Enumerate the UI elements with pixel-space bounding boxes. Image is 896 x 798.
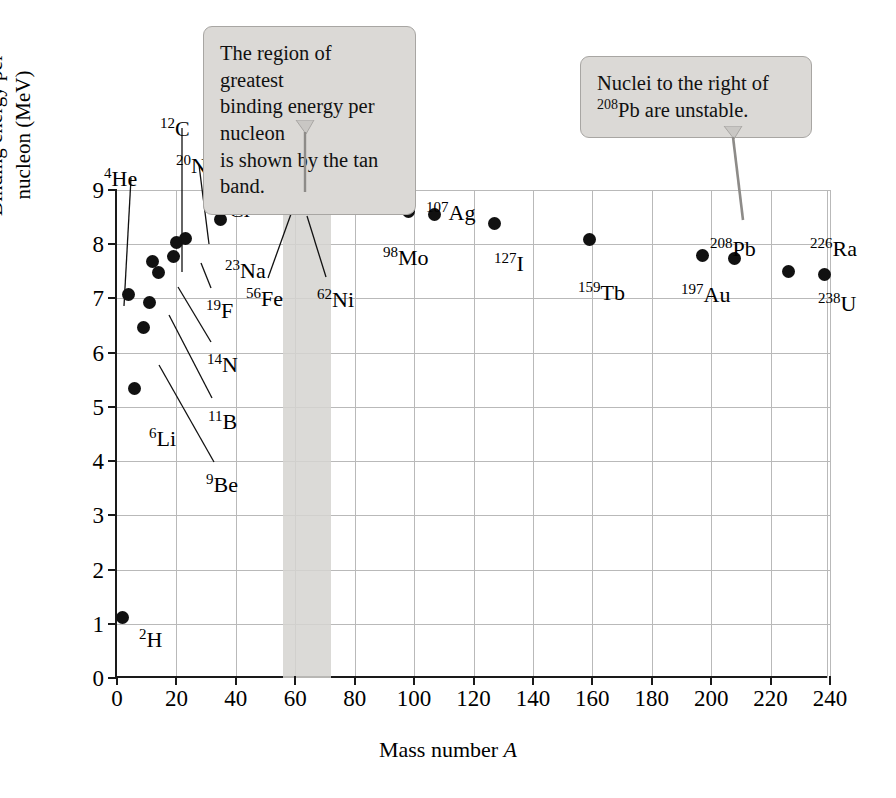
nuclide-label-li: 6Li [149,428,176,450]
nuclide-label-h: 2H [139,629,162,651]
data-point-n [152,266,165,279]
nuclide-mass-au: 197 [681,281,704,297]
x-tick-60 [294,676,296,685]
nuclide-mass-ni: 62 [317,286,332,302]
x-tick-0 [116,676,118,685]
nuclide-symbol-f: F [221,298,233,323]
nuclide-label-be: 9Be [206,474,238,496]
gridline-x-220 [771,190,772,678]
y-axis-title-line1: Binding energy per [0,54,7,216]
nuclide-label-n: 14N [207,354,238,376]
tan-band-rect [283,190,331,678]
nuclide-symbol-ni: Ni [332,287,354,312]
x-axis-title-text: Mass number [379,737,504,762]
callout-unstable-line2: 208Pb are unstable. [597,97,795,124]
y-tick-4 [108,460,117,462]
nuclide-label-au: 197Au [681,284,730,306]
nuclide-mass-b: 11 [208,408,222,424]
nuclide-mass-ne: 20 [176,152,191,168]
nuclide-symbol-li: Li [157,426,177,451]
x-tick-label-0: 0 [111,687,123,710]
x-tick-label-140: 140 [516,687,551,710]
gridline-x-120 [474,190,475,678]
nuclide-symbol-h: H [147,627,163,652]
y-tick-label-0: 0 [93,667,105,690]
x-tick-220 [770,676,772,685]
nuclide-symbol-tb: Tb [601,280,625,305]
nuclide-symbol-i: I [517,251,524,276]
x-tick-label-220: 220 [753,687,788,710]
x-tick-20 [175,676,177,685]
x-tick-180 [651,676,653,685]
x-tick-160 [591,676,593,685]
gridline-x-80 [355,190,356,678]
nuclide-label-he: 4He [104,168,137,190]
nuclide-label-u: 238U [818,293,856,315]
callout-unstable-superscript: 208 [597,97,618,112]
nuclide-symbol-mo: Mo [398,245,429,270]
nuclide-mass-be: 9 [206,471,214,487]
y-tick-3 [108,514,117,516]
x-tick-label-100: 100 [397,687,432,710]
nuclide-label-ra: 226Ra [810,238,857,260]
gridline-x-20 [176,190,177,678]
nuclide-mass-mo: 98 [383,244,398,260]
data-point-na [179,232,192,245]
y-tick-label-8: 8 [93,233,105,256]
y-tick-label-3: 3 [93,504,105,527]
data-point-i [488,217,501,230]
nuclide-symbol-ra: Ra [833,236,857,261]
y-tick-5 [108,406,117,408]
gridline-x-180 [652,190,653,678]
x-tick-label-80: 80 [343,687,366,710]
nuclide-symbol-be: Be [214,472,238,497]
data-point-f [167,250,180,263]
gridline-x-240 [830,190,831,678]
x-tick-140 [532,676,534,685]
nuclide-label-na: 23Na [225,260,266,282]
plot-area: 0123456789 02040608010012014016018020022… [115,190,828,678]
nuclide-label-c: 12C [160,118,190,140]
x-tick-label-240: 240 [813,687,848,710]
nuclide-mass-he: 4 [104,165,112,181]
x-axis-title-symbol: A [504,737,517,762]
nuclide-symbol-b: B [222,409,237,434]
nuclide-symbol-pb: Pb [733,236,756,261]
data-point-li [128,382,141,395]
gridline-x-140 [533,190,534,678]
gridline-x-160 [592,190,593,678]
x-tick-100 [413,676,415,685]
y-tick-label-5: 5 [93,395,105,418]
data-point-be [137,321,150,334]
nuclide-mass-i: 127 [494,250,517,266]
x-tick-label-200: 200 [694,687,729,710]
x-tick-label-180: 180 [635,687,670,710]
nuclide-mass-ra: 226 [810,235,833,251]
nuclide-mass-fe: 56 [246,285,261,301]
y-tick-label-4: 4 [93,450,105,473]
x-axis-title: Mass number A [0,737,896,763]
y-tick-label-1: 1 [93,612,105,635]
nuclide-label-ag: 107Ag [426,202,475,224]
nuclide-symbol-au: Au [704,282,731,307]
nuclide-mass-f: 19 [206,297,221,313]
nuclide-mass-li: 6 [149,425,157,441]
data-point-b [143,296,156,309]
gridline-x-200 [711,190,712,678]
nuclide-label-pb: 208Pb [710,238,756,260]
nuclide-label-b: 11B [208,411,237,433]
y-tick-1 [108,623,117,625]
nuclide-mass-c: 12 [160,115,175,131]
nuclide-symbol-he: He [112,166,138,191]
nuclide-symbol-ag: Ag [449,200,476,225]
y-tick-6 [108,352,117,354]
callout-tan-band-tail [280,120,330,198]
x-tick-label-120: 120 [456,687,491,710]
y-tick-label-7: 7 [93,287,105,310]
nuclide-label-mo: 98Mo [383,247,429,269]
nuclide-symbol-c: C [175,116,190,141]
nuclide-mass-u: 238 [818,290,841,306]
nuclide-mass-pb: 208 [710,235,733,251]
nuclide-label-f: 19F [206,300,233,322]
x-tick-label-20: 20 [165,687,188,710]
